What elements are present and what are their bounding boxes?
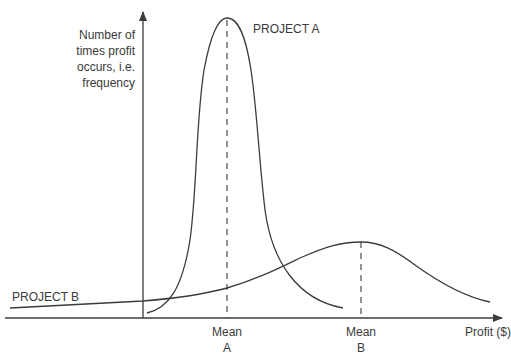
project-a-curve <box>147 18 343 313</box>
mean-b-label: Mean B <box>346 324 376 356</box>
project-a-label: PROJECT A <box>253 21 319 37</box>
project-b-curve <box>10 242 490 308</box>
mean-b-label-line2: B <box>346 340 376 356</box>
y-axis-label-line: frequency <box>76 75 135 91</box>
y-axis-label-line: times profit <box>76 43 135 59</box>
mean-a-label-line1: Mean <box>212 324 242 340</box>
y-axis-label-line: occurs, i.e. <box>76 59 135 75</box>
mean-a-label: Mean A <box>212 324 242 356</box>
project-b-label: PROJECT B <box>12 289 79 305</box>
x-axis-label: Profit ($) <box>465 324 511 340</box>
mean-b-label-line1: Mean <box>346 324 376 340</box>
y-axis-label: Number of times profit occurs, i.e. freq… <box>76 27 135 91</box>
y-axis-label-line: Number of <box>76 27 135 43</box>
mean-a-label-line2: A <box>212 340 242 356</box>
